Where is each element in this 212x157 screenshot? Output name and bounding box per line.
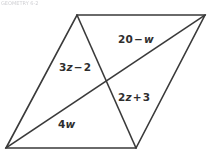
segment-label-4w: 4w xyxy=(58,119,75,130)
label-coefficient: 2 xyxy=(118,91,126,103)
label-coefficient: 3 xyxy=(59,61,67,73)
label-constant: 2 xyxy=(84,61,92,73)
segment-label-2z-plus-3: 2z+3 xyxy=(118,92,150,103)
label-operator: − xyxy=(73,61,84,73)
label-variable: w xyxy=(144,33,154,45)
label-constant: 3 xyxy=(143,91,151,103)
segment-label-3z-minus-2: 3z−2 xyxy=(59,62,91,73)
segment-label-20-minus-w: 20−w xyxy=(118,34,154,45)
background-watermark xyxy=(152,122,210,148)
label-coefficient: 20 xyxy=(118,33,133,45)
label-variable: z xyxy=(126,91,132,103)
label-coefficient: 4 xyxy=(58,118,66,130)
label-operator: − xyxy=(133,33,144,45)
label-operator: + xyxy=(132,91,143,103)
geometry-figure: GEOMETRY 6-2 3z−2 20−w 2z+3 4w xyxy=(0,0,212,157)
label-variable: w xyxy=(66,118,76,130)
label-variable: z xyxy=(67,61,73,73)
